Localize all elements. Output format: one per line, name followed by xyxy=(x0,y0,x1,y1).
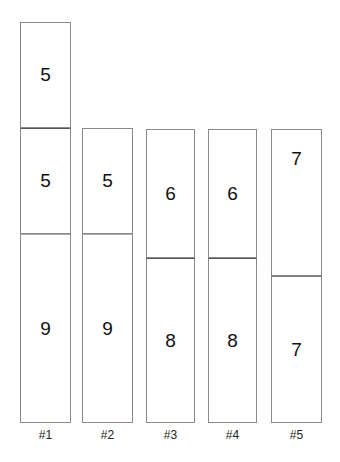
segment: 8 xyxy=(146,258,195,423)
column-label: #5 xyxy=(271,428,322,442)
segment: 5 xyxy=(82,128,133,234)
segment: 8 xyxy=(208,258,257,423)
column-5: 7 7 xyxy=(271,129,322,423)
segment: 6 xyxy=(208,129,257,258)
column-2: 5 9 xyxy=(82,128,133,423)
column-label: #1 xyxy=(20,428,71,442)
column-1: 5 5 9 xyxy=(20,22,71,423)
segment: 5 xyxy=(20,128,71,234)
segment: 9 xyxy=(20,234,71,423)
segment: 6 xyxy=(146,129,195,258)
column-label: #2 xyxy=(82,428,133,442)
segment: 9 xyxy=(82,234,133,423)
segment: 7 xyxy=(271,129,322,276)
segment: 5 xyxy=(20,22,71,128)
column-3: 6 8 xyxy=(146,129,195,423)
column-4: 6 8 xyxy=(208,129,257,423)
segment: 7 xyxy=(271,276,322,423)
column-label: #4 xyxy=(208,428,257,442)
column-label: #3 xyxy=(146,428,195,442)
